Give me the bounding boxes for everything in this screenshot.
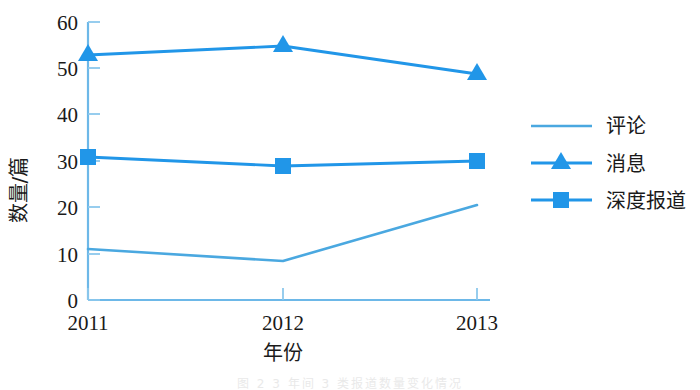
chart-legend: 评论 消息 深度报道 xyxy=(531,114,686,213)
y-tick-label-0: 0 xyxy=(68,289,79,313)
legend-item-shendubaodao[interactable]: 深度报道 xyxy=(531,189,686,213)
x-tick-label-2012: 2012 xyxy=(262,311,304,335)
series-line-pinglun xyxy=(88,205,477,261)
y-tick-label-60: 60 xyxy=(57,11,78,35)
triangle-marker xyxy=(78,44,98,61)
legend-label-xiaoxi: 消息 xyxy=(606,152,646,176)
x-tick-label-2011: 2011 xyxy=(67,311,108,335)
chart-container: 60 50 40 30 20 10 0 2011 2012 2013 年份 数量… xyxy=(0,0,700,390)
x-tick-marks xyxy=(88,288,477,300)
line-chart: 60 50 40 30 20 10 0 2011 2012 2013 年份 数量… xyxy=(0,0,700,390)
legend-label-shendubaodao: 深度报道 xyxy=(606,189,686,213)
triangle-marker xyxy=(467,63,487,80)
y-tick-label-20: 20 xyxy=(57,196,78,220)
triangle-icon xyxy=(551,152,571,169)
square-marker xyxy=(80,149,96,165)
y-tick-label-10: 10 xyxy=(57,243,78,267)
triangle-marker xyxy=(273,35,293,52)
x-axis-title: 年份 xyxy=(263,341,303,365)
legend-item-pinglun[interactable]: 评论 xyxy=(531,114,646,138)
y-tick-label-30: 30 xyxy=(57,150,78,174)
square-marker xyxy=(275,158,291,174)
y-tick-label-40: 40 xyxy=(57,103,78,127)
y-tick-label-50: 50 xyxy=(57,57,78,81)
legend-label-pinglun: 评论 xyxy=(606,114,646,138)
square-icon xyxy=(553,192,569,208)
legend-item-xiaoxi[interactable]: 消息 xyxy=(531,152,646,176)
y-axis-title: 数量/篇 xyxy=(7,157,31,224)
x-tick-label-2013: 2013 xyxy=(456,311,498,335)
series-markers-xiaoxi xyxy=(78,35,487,80)
caption-ghost-text: 图 2 3 年间 3 类报道数量变化情况 xyxy=(0,377,700,389)
square-marker xyxy=(469,153,485,169)
